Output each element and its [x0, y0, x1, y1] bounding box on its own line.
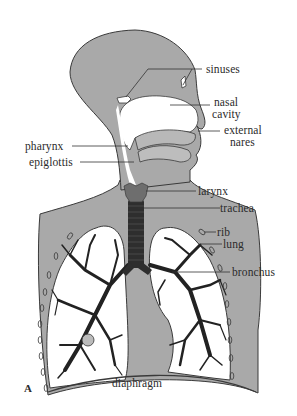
respiratory-diagram: sinuses nasal cavity external nares phar…	[0, 0, 297, 416]
label-nasal-cavity-line1: nasal	[214, 96, 238, 108]
panel-label: A	[24, 382, 32, 394]
label-bronchus: bronchus	[232, 266, 275, 278]
label-external-nares-line1: external	[224, 124, 262, 136]
label-pharynx: pharynx	[25, 140, 63, 152]
trachea-shape	[128, 200, 144, 268]
alveolus-detail	[82, 334, 94, 346]
label-nasal-cavity-line2: cavity	[212, 108, 241, 120]
label-sinuses: sinuses	[206, 63, 240, 75]
label-lung: lung	[223, 238, 244, 250]
label-rib: rib	[217, 226, 230, 238]
label-external-nares-line2: nares	[230, 136, 255, 148]
label-larynx: larynx	[198, 185, 228, 197]
label-diaphragm: diaphragm	[112, 377, 162, 389]
label-trachea: trachea	[220, 202, 254, 214]
label-epiglottis: epiglottis	[29, 156, 73, 168]
